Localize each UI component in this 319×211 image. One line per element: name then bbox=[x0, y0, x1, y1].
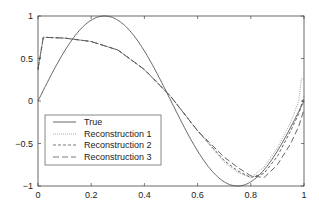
x-tick-label: 0.8 bbox=[245, 190, 258, 200]
legend-label: Reconstruction 1 bbox=[84, 129, 152, 139]
x-axis-ticks: 00.20.40.60.81 bbox=[35, 16, 306, 200]
line-chart: 00.20.40.60.81 −1−0.500.51 True Reconstr… bbox=[0, 0, 319, 211]
legend: True Reconstruction 1 Reconstruction 2 R… bbox=[45, 115, 161, 165]
x-tick-label: 0.6 bbox=[191, 190, 204, 200]
legend-label: True bbox=[84, 117, 102, 127]
x-tick-label: 0.2 bbox=[85, 190, 98, 200]
x-tick-label: 0.4 bbox=[138, 190, 151, 200]
x-tick-label: 1 bbox=[301, 190, 306, 200]
y-tick-label: 0.5 bbox=[20, 54, 33, 64]
x-tick-label: 0 bbox=[35, 190, 40, 200]
y-tick-label: −0.5 bbox=[15, 139, 33, 149]
y-tick-label: 1 bbox=[28, 11, 33, 21]
y-tick-label: −1 bbox=[23, 181, 33, 191]
legend-label: Reconstruction 2 bbox=[84, 140, 152, 150]
legend-label: Reconstruction 3 bbox=[84, 152, 152, 162]
y-tick-label: 0 bbox=[28, 96, 33, 106]
